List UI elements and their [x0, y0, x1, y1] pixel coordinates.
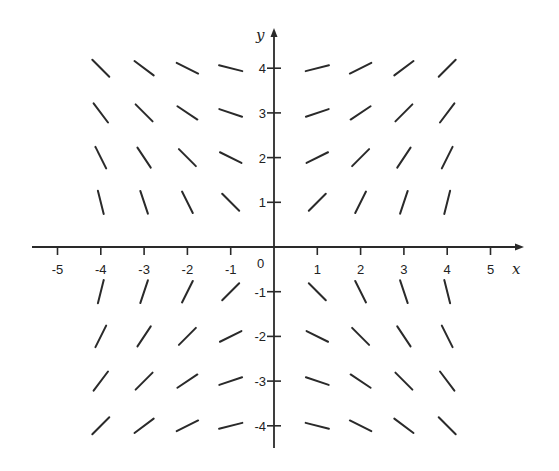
slope-segment — [98, 191, 104, 214]
slope-segment — [307, 331, 328, 342]
slope-segment — [94, 103, 108, 122]
y-tick-label: 3 — [259, 106, 266, 121]
slope-segment — [222, 194, 239, 211]
slope-segment — [137, 326, 150, 346]
slope-segment — [179, 149, 196, 166]
x-axis-arrow-icon — [515, 244, 524, 251]
slope-segment — [94, 372, 108, 391]
slope-segment — [177, 63, 198, 74]
slope-segment — [306, 109, 329, 117]
slope-segment — [439, 417, 456, 434]
x-tick-label: 2 — [357, 262, 364, 277]
slope-segment — [140, 191, 148, 214]
slope-segment — [136, 373, 153, 390]
slope-segment — [309, 194, 326, 211]
slope-segment — [179, 328, 196, 345]
slope-segment — [307, 152, 328, 163]
x-tick-label: -1 — [225, 262, 237, 277]
slope-segment — [400, 191, 408, 214]
y-tick-label: 2 — [259, 151, 266, 166]
y-tick-label: -2 — [254, 329, 266, 344]
slope-segment — [222, 283, 239, 300]
x-axis-label: x — [512, 260, 521, 278]
slope-segment — [177, 420, 198, 431]
slope-segment — [92, 60, 109, 77]
slope-segment — [306, 423, 329, 429]
slope-segment — [394, 419, 413, 433]
slope-segment — [397, 148, 410, 168]
y-tick-label: -3 — [254, 374, 266, 389]
x-tick-label: -2 — [182, 262, 194, 277]
slope-segment — [395, 104, 412, 121]
slope-segment — [177, 106, 197, 119]
slope-segment — [219, 65, 242, 71]
slope-segment — [352, 149, 369, 166]
y-axis-arrow-icon — [271, 28, 278, 37]
slope-segment — [400, 280, 408, 303]
slope-segment — [140, 280, 148, 303]
slope-segment — [92, 417, 109, 434]
slope-segment — [350, 420, 371, 431]
slope-segment — [306, 377, 329, 385]
slope-segment — [444, 191, 450, 214]
y-tick-label: -4 — [254, 419, 266, 434]
y-axis-label: y — [255, 26, 265, 44]
slope-segment — [440, 372, 454, 391]
slope-segment — [309, 283, 326, 300]
slope-segment — [440, 103, 454, 122]
slope-segment — [219, 423, 242, 429]
x-tick-label: 1 — [314, 262, 321, 277]
slope-segment — [442, 147, 453, 168]
slope-segment — [98, 280, 104, 303]
slope-segment — [137, 148, 150, 168]
slope-segment — [355, 192, 366, 213]
slope-segment — [352, 328, 369, 345]
x-tick-label: 3 — [400, 262, 407, 277]
slope-segment — [351, 374, 371, 387]
x-tick-label: -5 — [52, 262, 64, 277]
slope-segment — [135, 419, 154, 433]
x-tick-label: -3 — [138, 262, 150, 277]
slope-segment — [219, 109, 242, 117]
slope-segment — [177, 374, 197, 387]
x-tick-label: 5 — [487, 262, 494, 277]
slope-segment — [95, 326, 106, 347]
x-tick-label: 4 — [444, 262, 451, 277]
slope-segment — [95, 147, 106, 168]
slope-segment — [394, 61, 413, 75]
slope-field-chart: -5-4-3-2-1123454321-1-2-3-4 x y 0 — [0, 0, 559, 471]
slope-segment — [182, 192, 193, 213]
slope-segment — [355, 281, 366, 302]
y-tick-label: -1 — [254, 285, 266, 300]
slope-segment — [439, 60, 456, 77]
slope-segment — [220, 331, 241, 342]
slope-segment — [395, 373, 412, 390]
slope-segment — [442, 326, 453, 347]
y-tick-label: 4 — [259, 61, 266, 76]
slope-segment — [182, 281, 193, 302]
origin-label: 0 — [257, 256, 264, 271]
slope-segment — [306, 65, 329, 71]
slope-segment — [350, 63, 371, 74]
slope-segment — [444, 280, 450, 303]
slope-segment — [136, 104, 153, 121]
slope-segment — [219, 377, 242, 385]
y-tick-label: 1 — [259, 195, 266, 210]
x-tick-label: -4 — [95, 262, 107, 277]
slope-segment — [351, 106, 371, 119]
slope-segment — [135, 61, 154, 75]
slope-segment — [397, 326, 410, 346]
slope-segment — [220, 152, 241, 163]
